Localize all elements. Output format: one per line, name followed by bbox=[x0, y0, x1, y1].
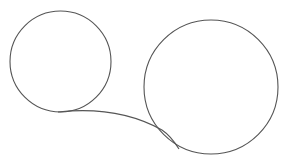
diagram-canvas bbox=[0, 0, 286, 165]
left-circle bbox=[10, 11, 111, 112]
right-circle bbox=[144, 20, 278, 154]
connector-curve bbox=[58, 111, 179, 149]
